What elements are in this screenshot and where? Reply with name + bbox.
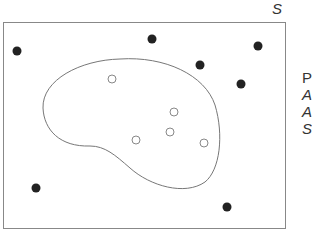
side-text-line: S (302, 120, 312, 137)
filled-point (254, 42, 263, 51)
filled-point (13, 47, 22, 56)
filled-point (196, 61, 205, 70)
hollow-point (170, 108, 178, 116)
filled-points-group (13, 35, 263, 212)
hollow-point (108, 75, 116, 83)
universal-set-rectangle (4, 23, 286, 229)
filled-point (148, 35, 157, 44)
set-label-s: S (272, 1, 282, 16)
side-text-line: A (302, 103, 312, 120)
filled-point (32, 184, 41, 193)
hollow-point (166, 128, 174, 136)
venn-diagram (0, 0, 312, 236)
side-text-line: A (302, 86, 312, 103)
side-text: P A A S (302, 69, 312, 137)
hollow-points-group (108, 75, 208, 147)
hollow-point (200, 139, 208, 147)
subset-region-outline (43, 59, 220, 189)
filled-point (223, 203, 232, 212)
side-text-line: P (302, 69, 312, 86)
filled-point (237, 80, 246, 89)
hollow-point (132, 136, 140, 144)
